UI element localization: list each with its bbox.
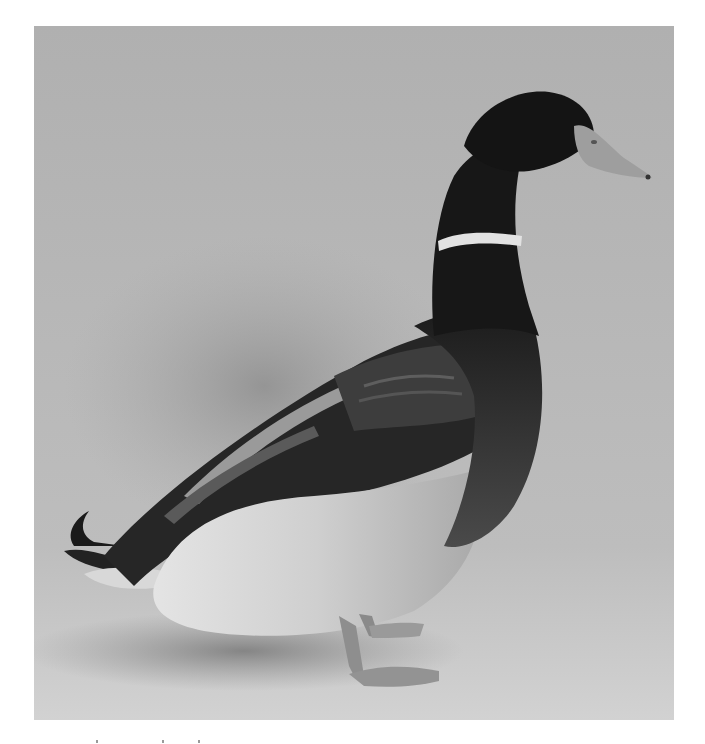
duck-photograph	[34, 26, 674, 720]
caption-cutoff	[34, 736, 674, 744]
duck-illustration	[34, 26, 674, 720]
